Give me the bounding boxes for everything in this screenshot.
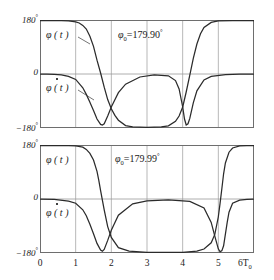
x-tick-3: 3 bbox=[139, 258, 155, 268]
x-tick-2: 2 bbox=[103, 258, 119, 268]
x-axis-end-label: 6T0 bbox=[238, 258, 252, 270]
curve-label-phi-lower: φ ( t ) bbox=[46, 154, 68, 165]
x-tick-5: 5 bbox=[210, 258, 226, 268]
figure-container: 180° 0 −180° φ ( t ) φ ( t ) φ0=179.90° bbox=[0, 0, 274, 280]
curve-label-phidot-lower: φ ( t ) bbox=[46, 207, 68, 218]
annotation-phi0-lower: φ0=179.99° bbox=[115, 152, 160, 166]
x-tick-0: 0 bbox=[32, 258, 48, 268]
y-tick-lower-0: 0 bbox=[0, 192, 38, 202]
y-tick-lower-180: 180° bbox=[0, 138, 38, 150]
x-tick-4: 4 bbox=[175, 258, 191, 268]
y-tick-lower-neg180: −180° bbox=[0, 246, 38, 258]
x-tick-1: 1 bbox=[68, 258, 84, 268]
